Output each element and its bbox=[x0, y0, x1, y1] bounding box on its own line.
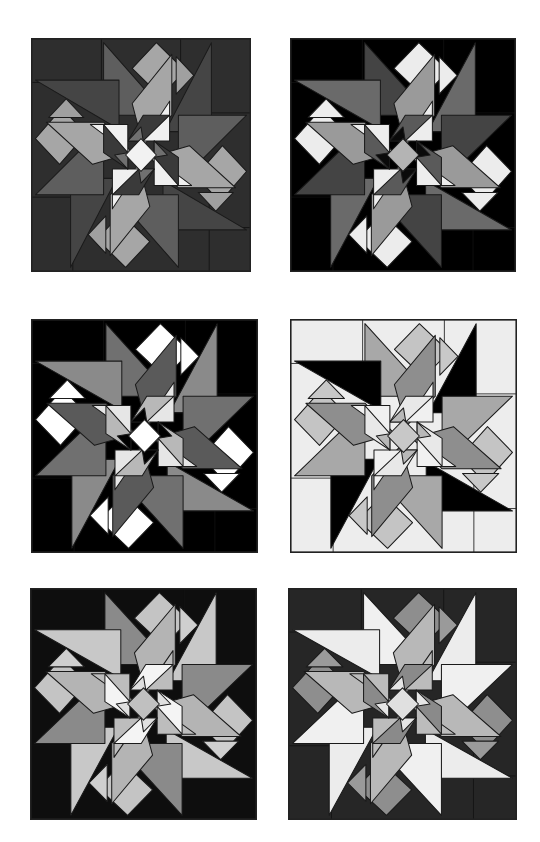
quilt-block bbox=[31, 38, 251, 272]
quilt-block bbox=[290, 319, 517, 553]
quilt-block bbox=[288, 588, 517, 820]
quilt-block bbox=[290, 38, 516, 272]
quilt-block-pattern bbox=[290, 38, 516, 272]
quilt-block-pattern bbox=[31, 38, 251, 272]
quilt-block-pattern bbox=[290, 319, 517, 553]
quilt-block bbox=[30, 588, 257, 820]
quilt-block-pattern bbox=[288, 588, 517, 820]
quilt-block-pattern bbox=[30, 588, 257, 820]
quilt-block-pattern bbox=[31, 319, 258, 553]
quilt-block bbox=[31, 319, 258, 553]
